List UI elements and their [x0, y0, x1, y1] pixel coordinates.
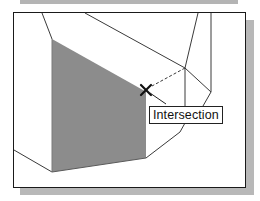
- snap-tooltip: Intersection: [149, 106, 223, 124]
- selected-face[interactable]: [52, 39, 146, 172]
- tooltip-leader-line: [150, 93, 166, 104]
- snap-tooltip-label: Intersection: [153, 108, 219, 122]
- cad-wireframe-model[interactable]: [0, 0, 260, 201]
